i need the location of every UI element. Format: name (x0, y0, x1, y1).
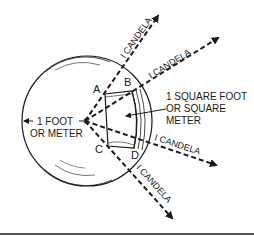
radius-label-line1: 1 FOOT (37, 116, 73, 127)
area-label-line1: 1 SQUARE FOOT (166, 91, 247, 102)
point-label-d: D (131, 149, 139, 161)
radius-label-line2: OR METER (30, 128, 83, 139)
area-leader-arrow (126, 109, 166, 116)
area-label-line2: OR SQUARE (166, 103, 226, 114)
point-label-a: A (93, 83, 101, 95)
ray-label-1: I CANDELA (118, 15, 153, 60)
bottom-rule (0, 233, 254, 235)
candela-diagram: A B C D 1 FOOT OR METER 1 SQUARE FOOT OR… (0, 0, 254, 237)
point-label-c: C (95, 143, 103, 155)
ray-1 (85, 16, 158, 121)
area-label-line3: METER (166, 115, 201, 126)
square-patch (105, 89, 145, 150)
ray-label-2: I CANDELA (147, 47, 193, 81)
point-label-b: B (124, 76, 131, 88)
ray-3 (85, 121, 216, 165)
